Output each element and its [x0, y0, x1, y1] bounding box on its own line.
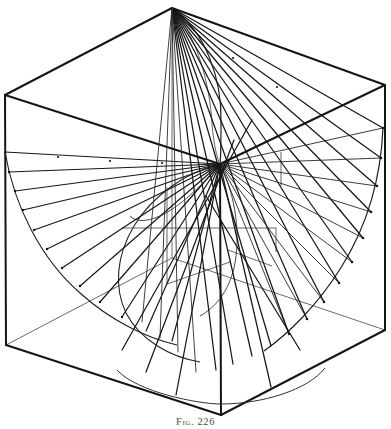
tick-point: [109, 160, 111, 162]
cube-edge-bottom-front-left: [6, 345, 221, 415]
tick-point: [79, 285, 81, 287]
tick-point: [8, 171, 10, 173]
generator-ui-4: [142, 8, 172, 322]
tick-point: [288, 333, 291, 336]
tick-point: [362, 237, 365, 240]
tick-point: [338, 282, 341, 285]
figure-page: Fig. 226: [0, 0, 391, 429]
generator-l-5: [34, 164, 220, 230]
tick-point: [57, 156, 59, 158]
tick-point: [33, 229, 35, 231]
tick-point: [232, 57, 234, 59]
tick-point: [61, 267, 63, 269]
tick-point: [121, 316, 123, 318]
tick-point: [46, 248, 48, 250]
tick-point: [22, 209, 24, 211]
tick-point: [382, 127, 385, 130]
tick-point: [351, 261, 354, 264]
tick-point: [380, 157, 383, 160]
cube-edge-vertical-left: [5, 95, 6, 345]
generator-lr-7: [220, 164, 339, 283]
tick-point: [99, 301, 101, 303]
tick-point: [370, 211, 373, 214]
figure-caption: Fig. 226: [0, 414, 391, 429]
generator-lr-3: [220, 164, 377, 186]
generator-bc-4: [122, 120, 252, 350]
tick-point: [276, 86, 278, 88]
generator-ur-6: [172, 8, 352, 262]
tick-point: [14, 190, 16, 192]
tick-point: [161, 162, 163, 164]
tick-point: [323, 301, 326, 304]
tick-point: [376, 185, 379, 188]
geometric-figure: [0, 0, 391, 429]
generator-l-6: [47, 164, 220, 249]
cube-edge-top-front-right: [220, 85, 385, 164]
generator-ui-3: [160, 8, 172, 338]
cube-edge-top-back-left: [5, 8, 172, 95]
lower-right-generator-fan: [220, 128, 383, 334]
tick-point: [306, 318, 309, 321]
throat-curve-lower: [126, 313, 200, 362]
